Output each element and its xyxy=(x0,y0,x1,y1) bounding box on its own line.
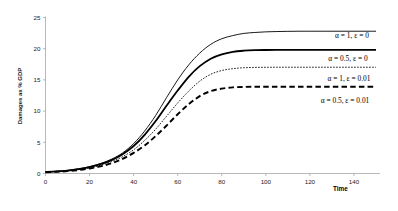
y-tick-label: 5 xyxy=(37,139,41,146)
series-label-alpha05-eps001: α = 0.5, ε = 0.01 xyxy=(321,96,370,105)
series-label-alpha1-eps0: α = 1, ε = 0 xyxy=(335,31,369,40)
y-axis-ticks: 0510152025 xyxy=(34,14,46,177)
x-tick-label: 120 xyxy=(305,178,316,185)
x-axis-ticks: 020406080100120140 xyxy=(44,174,360,186)
y-tick-label: 25 xyxy=(34,14,41,21)
series-line-alpha05-eps0 xyxy=(46,50,377,172)
y-tick-label: 20 xyxy=(34,45,41,52)
x-tick-label: 140 xyxy=(349,178,360,185)
x-tick-label: 100 xyxy=(261,178,272,185)
x-tick-label: 80 xyxy=(218,178,225,185)
chart-figure: 0510152025 020406080100120140 α = 1, ε =… xyxy=(0,0,398,211)
series-label-alpha1-eps001: α = 1, ε = 0.01 xyxy=(327,74,370,83)
y-tick-label: 0 xyxy=(37,170,41,177)
x-tick-label: 20 xyxy=(86,178,93,185)
y-tick-label: 15 xyxy=(34,76,41,83)
x-tick-label: 60 xyxy=(174,178,181,185)
series-line-alpha1-eps001 xyxy=(46,67,377,172)
y-tick-label: 10 xyxy=(34,107,41,114)
y-axis-title: Damages as % GDP xyxy=(17,68,23,125)
series-label-alpha05-eps0: α = 0.5, ε = 0 xyxy=(328,54,368,63)
chart-plot-area: 0510152025 020406080100120140 α = 1, ε =… xyxy=(0,0,398,211)
x-tick-label: 0 xyxy=(44,178,48,185)
chart-series-labels: α = 1, ε = 0α = 0.5, ε = 0α = 1, ε = 0.0… xyxy=(321,31,371,105)
x-tick-label: 40 xyxy=(130,178,137,185)
x-axis-title: Time xyxy=(333,185,348,192)
